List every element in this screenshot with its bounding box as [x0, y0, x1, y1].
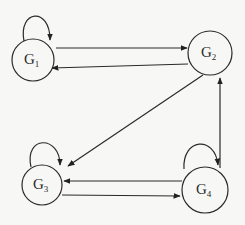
node-g4-label: G4 [196, 181, 212, 199]
graph-diagram: G1 G2 G3 G4 [0, 0, 245, 225]
graph-svg: G1 G2 G3 G4 [0, 0, 245, 225]
node-g2-label: G2 [201, 44, 216, 62]
edge-g4-self-loop [184, 144, 218, 169]
edge-g1-self-loop [23, 16, 50, 41]
node-g3-label: G3 [33, 176, 49, 194]
edge-g3-self-loop [30, 143, 60, 167]
node-g1-label: G1 [24, 51, 39, 69]
edge-g2-to-g3 [68, 75, 203, 166]
edge-g3-to-g4 [62, 195, 180, 196]
edge-g2-to-g1 [52, 64, 188, 68]
